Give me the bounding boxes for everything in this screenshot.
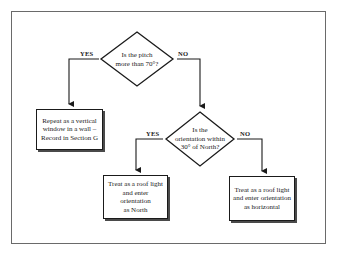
yes-label-orientation: YES [146, 130, 159, 137]
decision-line: Is the pitch [107, 51, 167, 60]
decision-line: orientation within [168, 135, 232, 144]
yes-label-pitch: YES [80, 50, 93, 57]
yes-connector-pitch [69, 59, 99, 104]
yes-connector-orientation [136, 139, 163, 170]
outcome-line: as horizontal [233, 203, 291, 212]
outcome-line: Record in Section G [41, 134, 98, 143]
outcome-line: as North [107, 206, 164, 215]
decision-line: Is the [168, 126, 232, 135]
decision-text-pitch: Is the pitch more than 70°? [107, 51, 167, 68]
outcome-line: Repeat as a vertical [41, 117, 98, 126]
decision-text-orientation: Is the orientation within 30° of North? [168, 126, 232, 152]
outcome-line: and enter orientation [107, 189, 164, 206]
no-label-pitch: NO [178, 50, 188, 57]
outcome-box-roof-light-north: Treat as a roof light and enter orientat… [103, 175, 168, 219]
outcome-box-roof-light-horizontal: Treat as a roof light and enter orientat… [229, 176, 295, 221]
no-connector-pitch [177, 59, 200, 106]
outcome-line: window in a wall – [41, 125, 98, 134]
no-label-orientation: NO [240, 130, 250, 137]
decision-line: more than 70°? [107, 60, 167, 69]
outcome-line: Treat as a roof light [107, 180, 164, 189]
outcome-line: Treat as a roof light [233, 186, 291, 195]
decision-line: 30° of North? [168, 143, 232, 152]
outcome-line: and enter orientation [233, 194, 291, 203]
no-connector-orientation [237, 139, 262, 171]
outcome-box-vertical-window: Repeat as a vertical window in a wall – … [36, 109, 103, 150]
